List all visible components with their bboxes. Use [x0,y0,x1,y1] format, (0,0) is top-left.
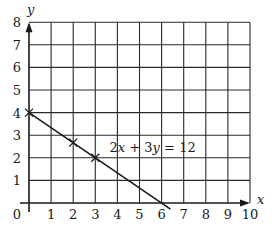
y-tick-label: 7 [13,38,21,53]
x-tick-label: 0 [13,207,21,222]
series-line [29,113,170,210]
x-tick-label: 9 [224,207,232,222]
x-tick-label: 1 [47,207,55,222]
x-tick-label: 6 [157,207,165,222]
axes [20,22,250,212]
x-tick-label: 7 [180,207,188,222]
x-axis-arrow-icon [240,200,250,207]
x-tick-label: 5 [135,207,143,222]
x-tick-label: 3 [91,207,99,222]
y-tick-label: 1 [13,173,21,188]
equation-label: 2x + 3y = 12 [110,140,196,155]
x-axis-label: x [257,192,265,207]
y-tick-label: 4 [13,106,21,121]
y-tick-label: 5 [13,83,21,98]
grid-lines [29,22,250,203]
y-axis-arrow-icon [26,22,33,32]
x-tick-label: 8 [202,207,210,222]
y-axis-label: y [26,2,35,17]
x-tick-label: 2 [69,207,77,222]
equation-line [29,113,170,210]
y-tick-label: 3 [13,128,21,143]
x-tick-label: 10 [242,207,259,222]
tick-labels: 01234567891012345678 [13,15,259,222]
x-tick-label: 4 [113,207,121,222]
y-tick-label: 2 [13,151,21,166]
y-tick-label: 6 [13,60,21,75]
line-chart: 01234567891012345678 2x + 3y = 12 x y [0,0,279,236]
y-tick-label: 8 [13,15,21,30]
